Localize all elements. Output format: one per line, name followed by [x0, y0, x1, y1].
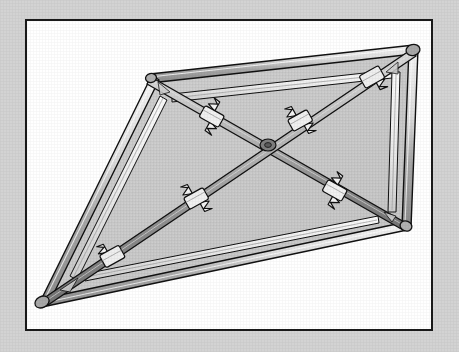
figure-root: Kite frame construction diagram quadrila… — [0, 0, 459, 352]
spar-crossing-hub — [260, 139, 276, 151]
kite-frame-illustration — [0, 0, 459, 352]
